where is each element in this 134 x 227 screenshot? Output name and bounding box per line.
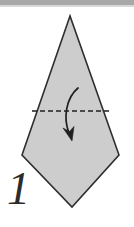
origami-figure: 1 (0, 0, 134, 227)
step-number-label: 1 (7, 166, 30, 212)
